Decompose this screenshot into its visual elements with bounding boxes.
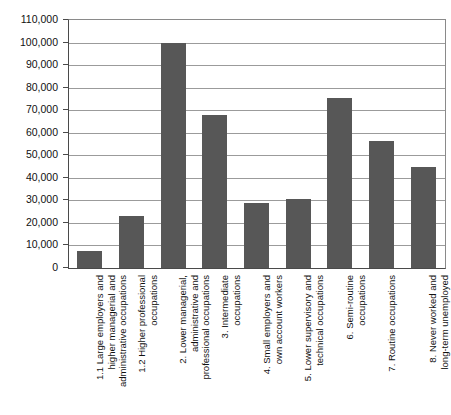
y-tick-label: 30,000 — [26, 194, 58, 204]
bar — [411, 167, 436, 268]
y-tick-label: 20,000 — [26, 217, 58, 227]
bar — [244, 203, 269, 268]
y-tick-label: 10,000 — [26, 239, 58, 249]
bar — [77, 251, 102, 268]
y-tick-label: 80,000 — [26, 82, 58, 92]
bar — [202, 115, 227, 268]
bar-chart: 110,000100,00090,00080,00070,00060,00050… — [0, 0, 451, 415]
bar — [119, 216, 144, 268]
bar — [327, 98, 352, 268]
y-tick-label: 0 — [52, 262, 58, 272]
x-axis-label: 7. Routine occupations — [386, 275, 398, 413]
plot-area — [68, 19, 446, 269]
x-axis-label: 6. Semi-routine occupations — [344, 275, 367, 413]
y-axis-tick-labels: 110,000100,00090,00080,00070,00060,00050… — [0, 13, 66, 267]
x-axis-label: 4. Small employers and own account worke… — [261, 275, 284, 413]
x-axis-category-labels: 1.1 Large employers and higher manageria… — [68, 275, 446, 415]
bar — [369, 141, 394, 268]
y-tick-label: 40,000 — [26, 172, 58, 182]
bar — [286, 199, 311, 268]
x-axis-label: 1.2 Higher professional occupations — [136, 275, 159, 413]
y-tick-label: 90,000 — [26, 59, 58, 69]
bars-layer — [69, 20, 445, 268]
plot-wrapper: 110,000100,00090,00080,00070,00060,00050… — [0, 0, 451, 275]
y-tick-label: 50,000 — [26, 149, 58, 159]
x-axis-label: 2. Lower managerial, administrative and … — [177, 275, 212, 413]
x-axis-label: 3. Intermediate occupations — [219, 275, 242, 413]
x-axis-label: 1.1 Large employers and higher manageria… — [94, 275, 129, 413]
y-tick-label: 70,000 — [26, 104, 58, 114]
y-tick-label: 110,000 — [21, 14, 58, 24]
y-tick-label: 100,000 — [20, 37, 58, 47]
x-axis-label: 8. Never worked and long-term unemployed — [427, 275, 450, 413]
y-tick-label: 60,000 — [26, 127, 58, 137]
bar — [161, 43, 186, 268]
x-axis-label: 5. Lower supervisory and technical occup… — [302, 275, 325, 413]
